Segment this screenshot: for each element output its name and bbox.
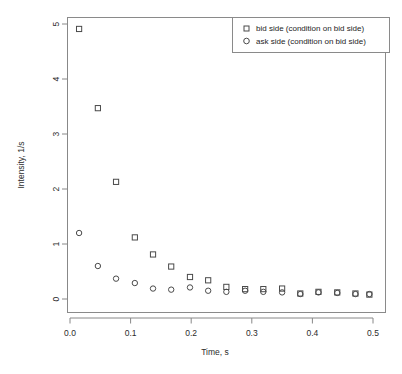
- data-point-square: [95, 106, 100, 111]
- data-point-circle: [205, 288, 210, 293]
- data-point-square: [76, 26, 81, 31]
- legend-label-bid: bid side (condition on bid side): [256, 24, 364, 33]
- data-point-square: [206, 278, 211, 283]
- legend-label-ask: ask side (condition on bid side): [256, 37, 366, 46]
- plot-frame: [68, 18, 386, 313]
- y-tick-label: 3: [51, 131, 61, 136]
- y-axis: 012345: [51, 21, 68, 301]
- data-point-circle: [279, 290, 284, 295]
- data-point-square: [113, 179, 118, 184]
- data-point-square: [132, 235, 137, 240]
- y-axis-title: Intensity, 1/s: [16, 141, 26, 188]
- data-point-square: [169, 264, 174, 269]
- x-tick-label: 0.1: [125, 328, 137, 338]
- data-point-circle: [113, 276, 118, 281]
- y-tick-label: 0: [51, 296, 61, 301]
- legend-entry-bid: bid side (condition on bid side): [244, 24, 364, 33]
- y-tick-label: 1: [51, 241, 61, 246]
- legend: bid side (condition on bid side) ask sid…: [233, 18, 390, 53]
- y-tick-label: 5: [51, 21, 61, 26]
- y-tick-label: 4: [51, 76, 61, 81]
- data-point-circle: [132, 280, 137, 285]
- data-point-circle: [169, 287, 174, 292]
- legend-entry-ask: ask side (condition on bid side): [244, 37, 366, 46]
- data-point-square: [187, 274, 192, 279]
- y-tick-label: 2: [51, 186, 61, 191]
- x-tick-label: 0.0: [64, 328, 76, 338]
- legend-box: [233, 18, 390, 53]
- x-tick-label: 0.2: [185, 328, 197, 338]
- data-point-circle: [150, 286, 155, 291]
- x-tick-label: 0.3: [246, 328, 258, 338]
- series-bid: [76, 26, 371, 297]
- data-point-circle: [187, 285, 192, 290]
- x-axis: 0.00.10.20.30.40.5: [64, 318, 379, 338]
- scatter-plot-figure: 012345 0.00.10.20.30.40.5 Time, s Intens…: [0, 0, 402, 374]
- plot-canvas: 012345 0.00.10.20.30.40.5 Time, s Intens…: [0, 0, 402, 374]
- x-tick-label: 0.5: [367, 328, 379, 338]
- x-axis-title: Time, s: [201, 347, 229, 357]
- data-series-layer: [76, 26, 372, 297]
- data-point-square: [150, 252, 155, 257]
- data-point-circle: [76, 230, 81, 235]
- x-tick-label: 0.4: [306, 328, 318, 338]
- data-point-circle: [242, 288, 247, 293]
- data-point-circle: [95, 263, 100, 268]
